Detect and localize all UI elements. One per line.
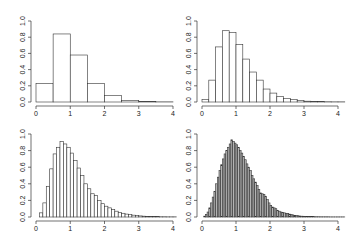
histogram-bar xyxy=(122,213,125,217)
histogram-bar xyxy=(39,213,42,217)
y-tick-label: 0.2 xyxy=(19,195,26,205)
histogram-bar xyxy=(105,206,108,217)
histogram-bar xyxy=(250,72,257,102)
x-axis: 01234 xyxy=(34,221,175,232)
y-tick-label: 0.8 xyxy=(185,32,192,42)
x-tick-label: 0 xyxy=(34,225,38,232)
histogram-bar xyxy=(57,147,60,217)
x-tick-label: 2 xyxy=(268,110,272,117)
histogram-panel-top-left: 012340.00.20.40.60.81.0 xyxy=(0,0,179,120)
histogram-bar xyxy=(77,168,80,217)
histogram-bar xyxy=(216,47,223,102)
histogram-bar xyxy=(290,100,297,102)
x-tick-label: 2 xyxy=(103,225,107,232)
histogram-bar xyxy=(46,186,49,217)
x-tick-label: 4 xyxy=(171,110,175,117)
histogram-bars xyxy=(36,34,173,102)
x-tick-label: 2 xyxy=(103,110,107,117)
y-axis: 0.00.20.40.60.81.0 xyxy=(185,16,197,107)
histogram-bar xyxy=(128,215,131,217)
y-tick-label: 0.6 xyxy=(19,162,26,172)
histogram-bar xyxy=(139,216,142,217)
y-axis: 0.00.20.40.60.81.0 xyxy=(185,129,197,222)
histogram-bar xyxy=(101,204,104,217)
histogram-bar xyxy=(91,194,94,217)
histogram-bar xyxy=(118,212,121,217)
histogram-bar xyxy=(105,96,122,102)
x-tick-label: 1 xyxy=(234,225,238,232)
histogram-bar xyxy=(243,59,250,102)
x-tick-label: 3 xyxy=(302,110,306,117)
y-tick-label: 0.2 xyxy=(185,195,192,205)
histogram-bar xyxy=(67,147,70,217)
x-tick-label: 0 xyxy=(200,225,204,232)
x-axis: 01234 xyxy=(200,106,340,117)
histogram-panel-bottom-left: 012340.00.20.40.60.81.0 xyxy=(0,120,179,240)
histogram-bar xyxy=(297,100,304,102)
x-tick-label: 1 xyxy=(234,110,238,117)
histogram-bar xyxy=(277,96,284,102)
x-tick-label: 3 xyxy=(137,225,141,232)
y-tick-label: 1.0 xyxy=(185,129,192,139)
histogram-plot: 012340.00.20.40.60.81.0 xyxy=(0,120,179,240)
y-tick-label: 0.0 xyxy=(185,97,192,107)
histogram-bar xyxy=(270,93,277,102)
x-axis: 01234 xyxy=(200,221,340,232)
y-tick-label: 0.8 xyxy=(19,32,26,42)
histogram-plot: 012340.00.20.40.60.81.0 xyxy=(180,0,359,120)
histogram-bar xyxy=(149,217,152,218)
y-tick-label: 0.4 xyxy=(185,179,192,189)
histogram-plot: 012340.00.20.40.60.81.0 xyxy=(0,0,179,120)
histogram-bars xyxy=(39,141,176,217)
histogram-bar xyxy=(209,80,216,102)
y-tick-label: 0.2 xyxy=(19,81,26,91)
y-axis: 0.00.20.40.60.81.0 xyxy=(19,16,31,107)
histogram-bar xyxy=(63,144,66,217)
histogram-bar xyxy=(284,98,291,102)
x-axis: 01234 xyxy=(34,106,175,117)
histogram-bar xyxy=(36,83,53,102)
y-tick-label: 0.0 xyxy=(19,212,26,222)
histogram-bar xyxy=(43,203,46,217)
histogram-bar xyxy=(202,100,209,102)
y-tick-label: 0.0 xyxy=(19,97,26,107)
x-tick-label: 0 xyxy=(200,110,204,117)
x-tick-label: 1 xyxy=(68,110,72,117)
histogram-panel-top-right: 012340.00.20.40.60.81.0 xyxy=(180,0,359,120)
y-tick-label: 1.0 xyxy=(185,16,192,26)
x-tick-label: 1 xyxy=(68,225,72,232)
histogram-bar xyxy=(304,101,311,102)
histogram-bar xyxy=(111,210,114,217)
x-tick-label: 4 xyxy=(336,110,340,117)
histogram-bar xyxy=(70,55,87,102)
histogram-bar xyxy=(115,211,118,217)
y-tick-label: 0.4 xyxy=(185,65,192,75)
y-tick-label: 0.8 xyxy=(19,146,26,156)
y-tick-label: 0.6 xyxy=(19,48,26,58)
histogram-bar xyxy=(146,216,149,217)
histogram-bar xyxy=(74,161,77,217)
histogram-bars xyxy=(204,140,345,217)
y-tick-label: 0.0 xyxy=(185,212,192,222)
histogram-bar xyxy=(125,214,128,217)
histogram-bar xyxy=(53,34,70,102)
y-tick-label: 0.8 xyxy=(185,146,192,156)
x-tick-label: 2 xyxy=(268,225,272,232)
histogram-bar xyxy=(53,154,56,217)
y-tick-label: 0.4 xyxy=(19,179,26,189)
histogram-bar xyxy=(94,195,97,217)
histogram-bar xyxy=(132,215,135,217)
histogram-panel-bottom-right: 012340.00.20.40.60.81.0 xyxy=(180,120,359,240)
y-axis: 0.00.20.40.60.81.0 xyxy=(19,129,31,222)
histogram-bar xyxy=(236,44,243,102)
y-tick-label: 0.2 xyxy=(185,81,192,91)
histogram-bar xyxy=(256,80,263,102)
y-tick-label: 0.6 xyxy=(185,48,192,58)
x-tick-label: 4 xyxy=(171,225,175,232)
y-tick-label: 1.0 xyxy=(19,129,26,139)
histogram-bar xyxy=(87,189,90,217)
y-tick-label: 0.4 xyxy=(19,65,26,75)
histogram-plot: 012340.00.20.40.60.81.0 xyxy=(180,120,359,240)
histogram-bar xyxy=(222,31,229,102)
histogram-bar xyxy=(263,89,270,102)
